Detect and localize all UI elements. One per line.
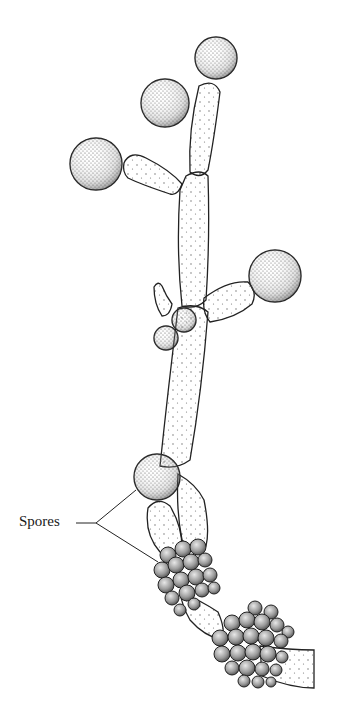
spore [70, 138, 122, 190]
spore [172, 308, 196, 332]
hypha-drawing [0, 0, 339, 725]
spore [154, 326, 178, 350]
illustration: Spores [0, 0, 339, 725]
spores-label: Spores [19, 513, 60, 530]
spore [195, 37, 237, 79]
spore [134, 454, 180, 500]
label-leader-lines [76, 490, 158, 562]
spore [141, 79, 189, 127]
spore [249, 250, 301, 302]
hyphal-cells [124, 83, 315, 688]
